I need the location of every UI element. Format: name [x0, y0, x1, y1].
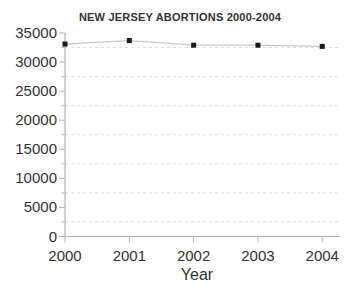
- data-point-marker: [191, 43, 196, 48]
- tick-labels: 0500010000150002000025000300003500020002…: [15, 24, 339, 264]
- x-axis-label: Year: [181, 266, 214, 283]
- x-tick-label: 2000: [48, 247, 81, 264]
- data-point-marker: [63, 42, 68, 47]
- minor-gridlines: [65, 48, 340, 222]
- data-point-marker: [320, 44, 325, 49]
- tick-marks: [59, 33, 322, 243]
- chart-title: NEW JERSEY ABORTIONS 2000-2004: [79, 11, 282, 23]
- y-tick-label: 25000: [15, 82, 57, 99]
- y-tick-label: 30000: [15, 53, 57, 70]
- x-tick-label: 2004: [306, 247, 339, 264]
- x-tick-label: 2001: [113, 247, 146, 264]
- axes: [65, 33, 340, 237]
- y-tick-label: 35000: [15, 24, 57, 41]
- x-tick-label: 2002: [177, 247, 210, 264]
- line-chart: NEW JERSEY ABORTIONS 2000-2004 050001000…: [0, 0, 353, 291]
- y-tick-label: 10000: [15, 169, 57, 186]
- y-tick-label: 20000: [15, 111, 57, 128]
- y-tick-label: 15000: [15, 140, 57, 157]
- y-tick-label: 5000: [24, 198, 57, 215]
- x-tick-label: 2003: [241, 247, 274, 264]
- data-point-marker: [255, 43, 260, 48]
- y-tick-label: 0: [49, 228, 57, 245]
- chart-figure: NEW JERSEY ABORTIONS 2000-2004 050001000…: [0, 0, 353, 291]
- data-point-marker: [127, 38, 132, 43]
